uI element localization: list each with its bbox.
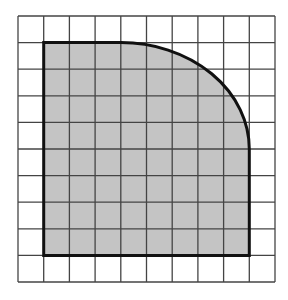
grid-figure	[0, 0, 288, 300]
grid-diagram	[0, 0, 288, 300]
